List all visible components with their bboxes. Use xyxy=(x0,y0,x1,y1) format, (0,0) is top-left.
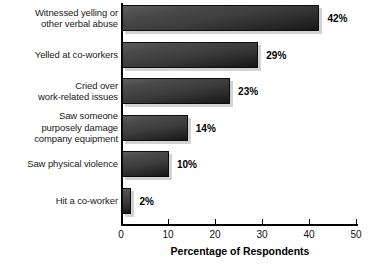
bar-item: 14% xyxy=(122,115,248,141)
category-label-line: company equipment xyxy=(0,133,118,145)
category-label-line: Hit a co-worker xyxy=(0,195,118,207)
x-axis-tick-label: 10 xyxy=(153,229,183,240)
x-axis-tick xyxy=(121,219,122,224)
bar xyxy=(122,188,131,214)
x-axis-tick-label: 20 xyxy=(200,229,230,240)
x-axis-tick xyxy=(262,219,263,224)
x-axis-line xyxy=(121,224,358,226)
x-axis-tick-label: 0 xyxy=(106,229,136,240)
bar xyxy=(122,78,230,104)
x-axis-tick-label: 50 xyxy=(341,229,370,240)
x-axis-tick-label: 40 xyxy=(294,229,324,240)
category-label-line: Saw someone xyxy=(0,110,118,122)
bar-value-label: 10% xyxy=(177,159,197,170)
bar-item: 10% xyxy=(122,151,229,177)
x-axis-tick xyxy=(309,219,310,224)
bar-item: 23% xyxy=(122,78,290,104)
category-axis-labels: Witnessed yelling orother verbal abuseYe… xyxy=(0,0,118,226)
bar-value-label: 2% xyxy=(139,195,153,206)
x-axis-tick-label: 30 xyxy=(247,229,277,240)
bar-value-label: 42% xyxy=(327,13,347,24)
x-axis-tick xyxy=(168,219,169,224)
category-label-line: Saw physical violence xyxy=(0,158,118,170)
bar-item: 29% xyxy=(122,42,318,68)
category-label-line: Yelled at co-workers xyxy=(0,49,118,61)
bar-chart: Witnessed yelling orother verbal abuseYe… xyxy=(0,0,370,270)
category-label: Saw physical violence xyxy=(0,158,118,170)
category-label: Saw someonepurposely damagecompany equip… xyxy=(0,110,118,145)
category-label-line: Cried over xyxy=(0,80,118,92)
x-axis-title: Percentage of Respondents xyxy=(121,245,359,257)
category-label: Cried overwork-related issues xyxy=(0,80,118,103)
bar-value-label: 23% xyxy=(238,86,258,97)
plot-area: 01020304050 42%29%23%14%10%2% xyxy=(121,0,370,226)
category-label-line: other verbal abuse xyxy=(0,18,118,30)
bar xyxy=(122,42,258,68)
category-label-line: purposely damage xyxy=(0,122,118,134)
x-axis-tick xyxy=(215,219,216,224)
category-label-line: work-related issues xyxy=(0,91,118,103)
bar xyxy=(122,5,319,31)
x-axis-tick xyxy=(356,219,357,224)
category-label: Hit a co-worker xyxy=(0,195,118,207)
bar xyxy=(122,151,169,177)
bar xyxy=(122,115,188,141)
category-label-line: Witnessed yelling or xyxy=(0,7,118,19)
category-label: Yelled at co-workers xyxy=(0,49,118,61)
bar-value-label: 14% xyxy=(196,122,216,133)
bar-item: 2% xyxy=(122,188,191,214)
category-label: Witnessed yelling orother verbal abuse xyxy=(0,7,118,30)
bar-value-label: 29% xyxy=(266,49,286,60)
bar-item: 42% xyxy=(122,5,370,31)
